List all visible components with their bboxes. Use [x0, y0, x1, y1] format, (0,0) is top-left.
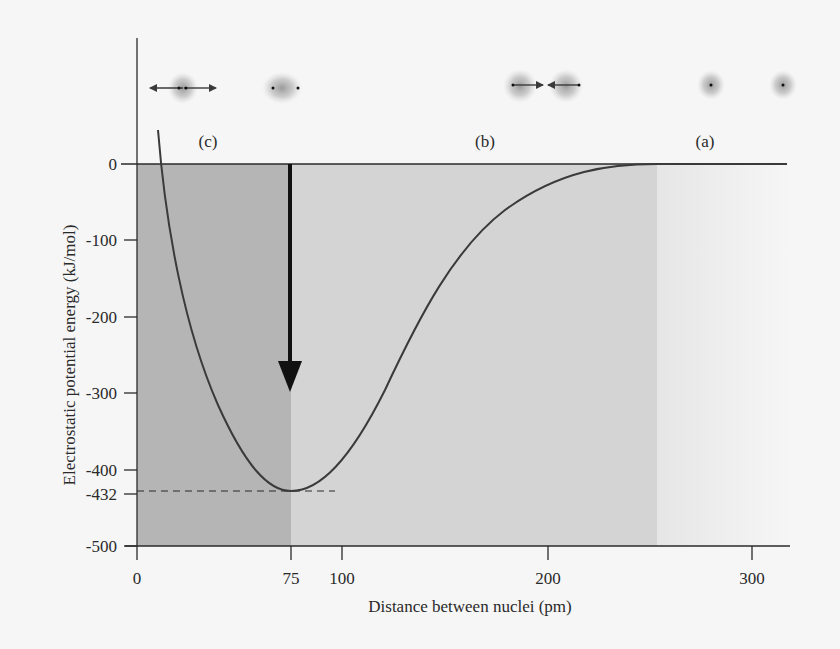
- y-tick-minus100: -100: [86, 231, 117, 250]
- y-tick-minus200: -200: [86, 308, 117, 327]
- y-axis-title: Electrostatic potential energy (kJ/mol): [60, 225, 79, 486]
- y-tick-minus300: -300: [86, 384, 117, 403]
- region-label-c: (c): [199, 132, 218, 151]
- region-c-shade: [137, 164, 291, 546]
- y-tick-minus400: -400: [86, 461, 117, 480]
- atom-diagram-repelling: [150, 72, 216, 104]
- y-tick-minus500: -500: [86, 537, 117, 556]
- y-tick-minus432: -432: [86, 485, 117, 504]
- x-tick-labels: 0 75 100 200 300: [133, 569, 765, 588]
- x-tick-300: 300: [739, 569, 765, 588]
- x-tick-100: 100: [329, 569, 355, 588]
- x-tick-200: 200: [535, 569, 561, 588]
- region-a-shade: [657, 164, 790, 546]
- y-tick-labels: 0 -100 -200 -300 -400 -432 -500: [86, 155, 117, 556]
- y-ticks: [124, 240, 137, 546]
- x-tick-0: 0: [133, 569, 142, 588]
- region-label-b: (b): [475, 132, 495, 151]
- atom-diagram-separated: [697, 70, 797, 100]
- region-b-shade: [291, 164, 657, 546]
- chart: 0 -100 -200 -300 -400 -432 -500 0 75 100…: [0, 0, 840, 649]
- atom-diagram-attracting: [503, 69, 583, 103]
- y-tick-0: 0: [109, 155, 118, 174]
- x-tick-75: 75: [283, 569, 300, 588]
- x-ticks: [137, 546, 752, 560]
- atom-diagram-bonded: [262, 72, 302, 104]
- x-axis-title: Distance between nuclei (pm): [368, 597, 571, 616]
- region-label-a: (a): [696, 132, 715, 151]
